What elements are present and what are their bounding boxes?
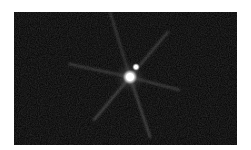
companion-star xyxy=(132,63,140,71)
star-field xyxy=(14,12,237,145)
astronomical-image xyxy=(14,12,237,145)
primary-star xyxy=(122,69,138,85)
